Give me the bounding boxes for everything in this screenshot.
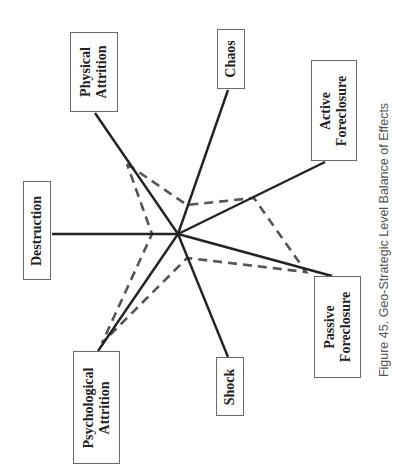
- spoke-physical-attrition: [95, 113, 178, 234]
- box-destruction: Destruction: [23, 181, 51, 280]
- box-passive-foreclosure: Passive Foreclosure: [314, 276, 361, 378]
- label-destruction: Destruction: [29, 196, 45, 266]
- label-physical-attrition: Physical Attrition: [78, 46, 110, 99]
- spoke-shock: [178, 234, 228, 357]
- spoke-psychological-attrition: [98, 234, 178, 351]
- box-physical-attrition: Physical Attrition: [70, 32, 118, 112]
- balance-dashed-line: [102, 164, 306, 343]
- label-chaos: Chaos: [223, 40, 239, 77]
- diagram-canvas: Physical Attrition Chaos Active Foreclos…: [0, 0, 405, 471]
- box-chaos: Chaos: [217, 29, 245, 89]
- box-shock: Shock: [216, 357, 244, 416]
- label-passive-foreclosure: Passive Foreclosure: [322, 292, 354, 362]
- box-active-foreclosure: Active Foreclosure: [311, 60, 357, 161]
- figure-caption: Figure 45. Geo-Strategic Level Balance o…: [377, 103, 391, 377]
- box-psychological-attrition: Psychological Attrition: [73, 351, 120, 464]
- spoke-passive-foreclosure: [178, 234, 332, 276]
- label-active-foreclosure: Active Foreclosure: [318, 75, 350, 145]
- label-psychological-attrition: Psychological Attrition: [81, 367, 113, 448]
- label-shock: Shock: [222, 368, 238, 405]
